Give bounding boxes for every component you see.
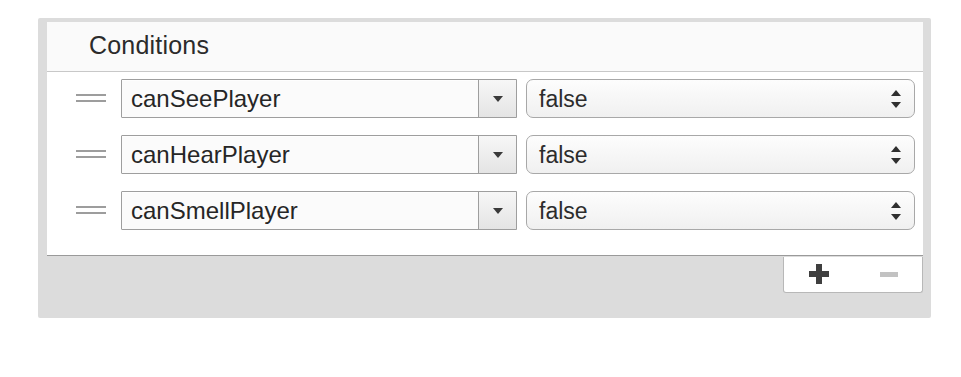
minus-icon [880,272,898,277]
drag-handle-icon[interactable] [76,204,106,217]
condition-row: canHearPlayer false [47,128,923,184]
chevron-down-icon[interactable] [478,79,517,118]
condition-property-combobox[interactable]: canSmellPlayer [121,191,517,230]
drag-handle-icon[interactable] [76,92,106,105]
add-remove-toolbar [783,257,923,293]
condition-value-label: false [539,197,588,225]
condition-value-popup[interactable]: false [526,191,915,230]
condition-property-value: canHearPlayer [131,141,290,169]
condition-property-combobox[interactable]: canHearPlayer [121,135,517,174]
updown-arrows-icon [891,202,901,220]
condition-value-label: false [539,85,588,113]
panel-header: Conditions [47,22,923,72]
updown-arrows-icon [891,146,901,164]
condition-value-popup[interactable]: false [526,135,915,174]
page-title: Conditions [89,31,209,60]
condition-row: canSeePlayer false [47,72,923,128]
chevron-down-icon[interactable] [478,191,517,230]
remove-condition-button [854,257,924,291]
condition-property-value: canSeePlayer [131,85,280,113]
conditions-panel: Conditions canSeePlayer false [38,18,931,318]
plus-icon [809,264,829,284]
drag-handle-icon[interactable] [76,148,106,161]
conditions-list: canSeePlayer false canHearPlayer [47,72,923,256]
condition-property-combobox[interactable]: canSeePlayer [121,79,517,118]
condition-row: canSmellPlayer false [47,184,923,240]
condition-value-label: false [539,141,588,169]
condition-value-popup[interactable]: false [526,79,915,118]
add-condition-button[interactable] [784,257,854,291]
updown-arrows-icon [891,90,901,108]
condition-property-value: canSmellPlayer [131,197,298,225]
chevron-down-icon[interactable] [478,135,517,174]
